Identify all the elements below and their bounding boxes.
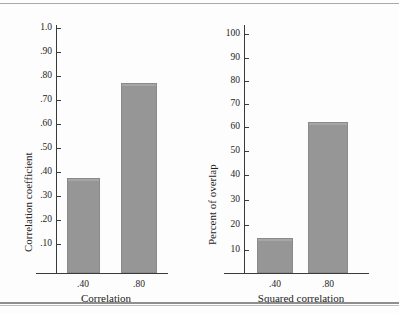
right-y-ticklabel-40: 40	[204, 170, 240, 180]
right-y-ticklabel-10: 10	[204, 245, 240, 255]
left-y-tick-.70	[56, 100, 61, 101]
left-y-tick-1.0	[56, 28, 61, 29]
left-x-axis-line	[36, 273, 168, 274]
left-y-ticklabel-.80: .80	[22, 71, 52, 81]
left-x-category-.80: .80	[119, 279, 159, 289]
right-y-tick-90	[244, 58, 249, 59]
left-y-ticklabel-.20: .20	[22, 215, 52, 225]
bar-correlation-.80	[121, 83, 157, 273]
left-y-tick-.80	[56, 76, 61, 77]
left-y-tick-.60	[56, 124, 61, 125]
figure-page: Correlation coefficient 1.0 .90 .80 .70 …	[0, 0, 399, 313]
right-x-axis-line	[224, 273, 369, 274]
right-y-tick-100	[244, 34, 249, 35]
right-y-tick-50	[244, 151, 249, 152]
page-rule-bottom-secondary	[0, 305, 399, 306]
left-y-ticklabel-.50: .50	[22, 143, 52, 153]
left-y-ticklabel-1.0: 1.0	[22, 23, 52, 33]
left-y-tick-.50	[56, 148, 61, 149]
left-x-category-.40: .40	[63, 279, 103, 289]
right-y-tick-30	[244, 200, 249, 201]
left-y-ticklabel-.90: .90	[22, 47, 52, 57]
bar-squared-correlation-.40	[257, 238, 293, 273]
left-y-ticklabel-.70: .70	[22, 95, 52, 105]
right-y-tick-20	[244, 225, 249, 226]
left-y-axis-line	[56, 25, 57, 274]
correlation-coefficient-panel: Correlation coefficient 1.0 .90 .80 .70 …	[0, 0, 196, 313]
right-y-ticklabel-50: 50	[204, 146, 240, 156]
left-y-tick-.20	[56, 220, 61, 221]
left-y-tick-.30	[56, 196, 61, 197]
right-y-tick-70	[244, 104, 249, 105]
right-y-axis-line	[244, 25, 245, 274]
bar-correlation-.40	[67, 178, 100, 273]
bar-squared-correlation-.80	[308, 122, 348, 273]
left-y-tick-.90	[56, 52, 61, 53]
left-y-tick-.40	[56, 172, 61, 173]
right-y-ticklabel-20: 20	[204, 220, 240, 230]
right-y-ticklabel-100: 100	[204, 29, 240, 39]
right-y-tick-40	[244, 175, 249, 176]
percent-of-overlap-panel: Percent of overlap 100 90 80 70 60 50 40…	[196, 0, 399, 313]
left-y-tick-.10	[56, 244, 61, 245]
right-y-ticklabel-60: 60	[204, 122, 240, 132]
page-rule-bottom	[0, 302, 399, 304]
right-y-tick-60	[244, 127, 249, 128]
left-y-ticklabel-.10: .10	[22, 239, 52, 249]
right-x-category-.40: .40	[255, 279, 295, 289]
right-y-tick-80	[244, 81, 249, 82]
right-x-category-.80: .80	[308, 279, 348, 289]
left-y-ticklabel-.60: .60	[22, 119, 52, 129]
left-y-ticklabel-.30: .30	[22, 191, 52, 201]
right-y-ticklabel-80: 80	[204, 76, 240, 86]
right-y-ticklabel-90: 90	[204, 53, 240, 63]
right-y-tick-10	[244, 250, 249, 251]
left-y-ticklabel-.40: .40	[22, 167, 52, 177]
right-y-ticklabel-70: 70	[204, 99, 240, 109]
right-y-ticklabel-30: 30	[204, 195, 240, 205]
